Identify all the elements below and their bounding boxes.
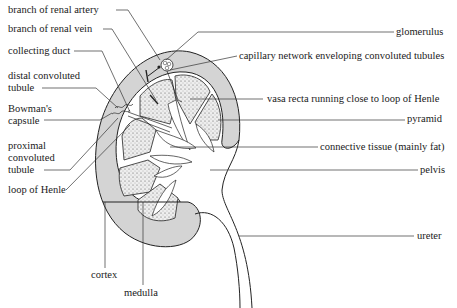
label-ureter: ureter [417, 230, 441, 242]
label-distal-convoluted-tubule: distal convoluted tubule [8, 70, 80, 94]
label-branch-renal-artery: branch of renal artery [8, 4, 99, 16]
label-glomerulus: glomerulus [396, 26, 443, 38]
label-cortex: cortex [91, 269, 117, 281]
pyramid-4 [122, 118, 156, 160]
pelvis-outline [222, 140, 252, 308]
label-proximal-convoluted-tubule: proximal convoluted tubule [8, 140, 55, 176]
label-pelvis: pelvis [420, 164, 445, 176]
pyramid-3 [140, 80, 176, 124]
label-loop-of-henle: loop of Henle [8, 184, 66, 196]
ureter-outline [195, 213, 240, 308]
label-pyramid: pyramid [407, 113, 442, 125]
label-collecting-duct: collecting duct [8, 45, 70, 57]
label-bowmans-capsule: Bowman's capsule [8, 103, 52, 127]
label-capillary-network: capillary network enveloping convoluted … [239, 50, 444, 62]
label-vasa-recta: vasa recta running close to loop of Henl… [267, 93, 439, 105]
label-connective-tissue: connective tissue (mainly fat) [320, 141, 445, 153]
label-medulla: medulla [124, 287, 158, 299]
label-branch-renal-vein: branch of renal vein [8, 23, 92, 35]
kidney-diagram: branch of renal artery branch of renal v… [0, 0, 457, 308]
